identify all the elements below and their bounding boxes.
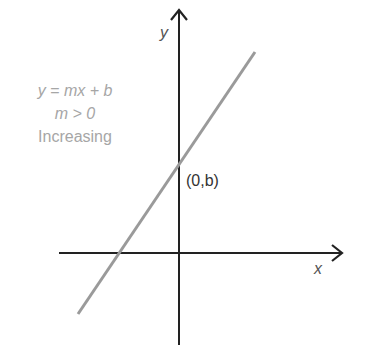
equation-label: y = mx + b bbox=[0, 80, 150, 102]
y-intercept-label: (0,b) bbox=[186, 172, 219, 190]
condition-label: m > 0 bbox=[0, 103, 150, 125]
description-label: Increasing bbox=[0, 126, 150, 148]
y-axis-label: y bbox=[160, 24, 168, 42]
x-axis-label: x bbox=[314, 260, 322, 278]
